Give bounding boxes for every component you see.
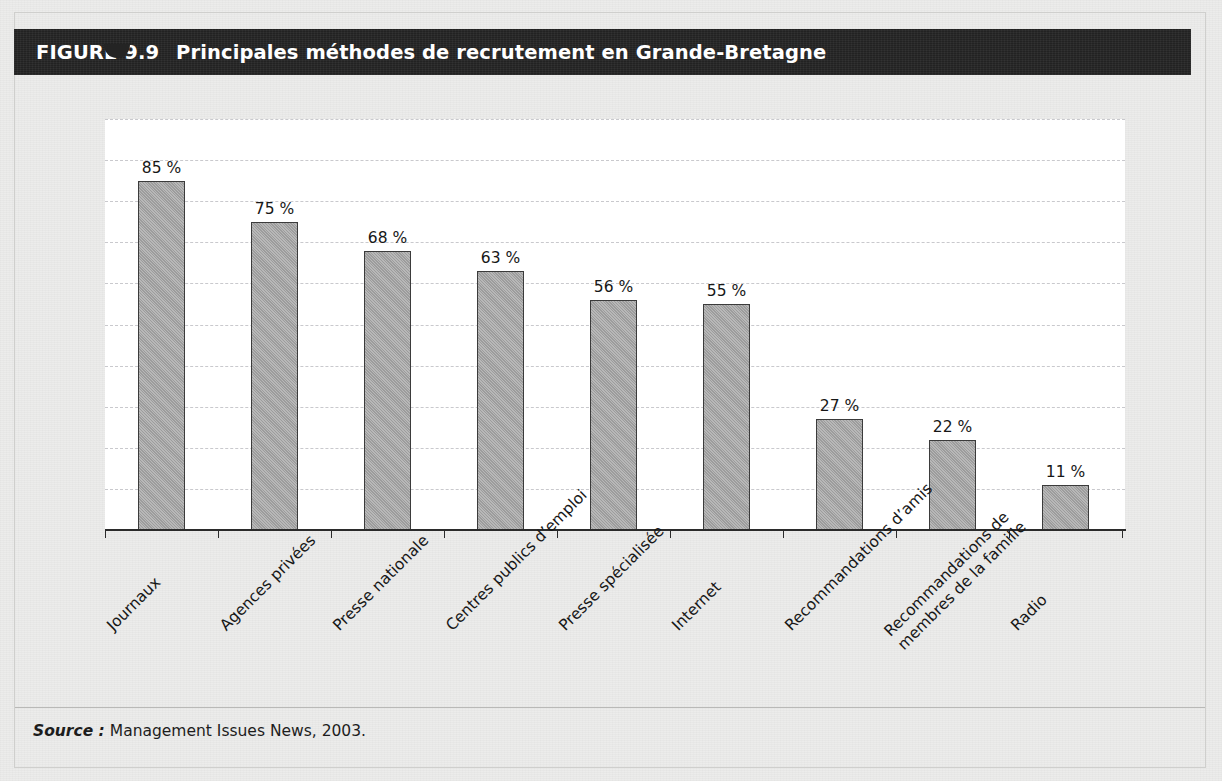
bar-slot: 75 % — [218, 119, 331, 530]
x-axis-tick — [444, 529, 445, 538]
source-text: Management Issues News, 2003. — [110, 722, 366, 740]
bar-slot: 68 % — [331, 119, 444, 530]
bar-value-label: 56 % — [590, 278, 637, 296]
bar-slot: 56 % — [557, 119, 670, 530]
chart-bars-layer: 85 %75 %68 %63 %56 %55 %27 %22 %11 % — [105, 119, 1125, 530]
source-label: Source : — [33, 722, 105, 740]
figure-number-label: FIGURE 9.9 — [36, 41, 159, 64]
figure-title-bar: FIGURE 9.9 Principales méthodes de recru… — [14, 29, 1191, 75]
chart-bar[interactable] — [816, 419, 863, 530]
bar-value-label: 75 % — [251, 200, 298, 218]
source-line: Source :Management Issues News, 2003. — [33, 722, 366, 740]
chart-bar[interactable] — [929, 440, 976, 530]
chart-bar[interactable] — [477, 271, 524, 530]
chart-bar[interactable] — [251, 222, 298, 530]
bar-slot: 85 % — [105, 119, 218, 530]
bar-value-label: 27 % — [816, 397, 863, 415]
chart-bar[interactable] — [703, 304, 750, 530]
x-axis-tick — [670, 529, 671, 538]
bar-slot: 27 % — [783, 119, 896, 530]
bar-value-label: 11 % — [1042, 463, 1089, 481]
figure-title-text: Principales méthodes de recrutement en G… — [176, 41, 826, 64]
bar-value-label: 85 % — [138, 159, 185, 177]
source-divider — [15, 707, 1205, 708]
chart-bar[interactable] — [590, 300, 637, 530]
bar-value-label: 68 % — [364, 229, 411, 247]
x-axis-tick — [331, 529, 332, 538]
bar-value-label: 55 % — [703, 282, 750, 300]
bar-value-label: 22 % — [929, 418, 976, 436]
bar-slot: 11 % — [1009, 119, 1122, 530]
bar-slot: 22 % — [896, 119, 1009, 530]
bar-slot: 63 % — [444, 119, 557, 530]
x-axis-tick — [783, 529, 784, 538]
chart-bar[interactable] — [364, 251, 411, 530]
x-axis-tick — [218, 529, 219, 538]
bar-slot: 55 % — [670, 119, 783, 530]
x-axis-tick — [1122, 529, 1123, 538]
bar-value-label: 63 % — [477, 249, 524, 267]
x-axis-line — [105, 529, 1126, 531]
chart-bar[interactable] — [138, 181, 185, 530]
x-axis-tick — [105, 529, 106, 538]
